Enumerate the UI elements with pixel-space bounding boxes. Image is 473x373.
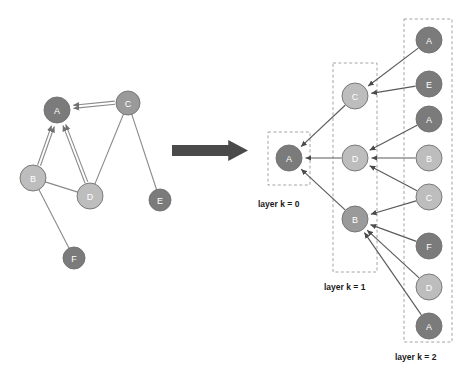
source-edge-b-a: [38, 126, 52, 165]
node-label: A: [426, 322, 432, 332]
tree-node-layer1-d-1[interactable]: D: [342, 145, 368, 171]
diagram-svg: ABCDEF ACDBAEABCFDA layer k = 0layer k =…: [0, 0, 473, 373]
tree-node-layer2-f-5[interactable]: F: [416, 233, 442, 259]
node-label: A: [54, 106, 60, 116]
node-label: B: [352, 215, 358, 225]
node-label: F: [71, 254, 77, 264]
source-edge-d-a-parallel: [66, 124, 88, 182]
tree-edge-t-A2c-to-t-B1: [364, 233, 421, 315]
transform-arrow: [172, 140, 248, 161]
source-edge-b-f: [38, 189, 69, 249]
node-label: D: [352, 154, 359, 164]
node-label: C: [125, 99, 132, 109]
tree-node-layer2-c-4[interactable]: C: [416, 184, 442, 210]
source-graph-nodes: ABCDEF: [20, 91, 171, 269]
source-node-c-2[interactable]: C: [116, 91, 140, 115]
node-label: A: [426, 36, 432, 46]
source-edge-c-e: [131, 113, 156, 190]
source-node-f-5[interactable]: F: [63, 247, 85, 269]
transform-arrow-group: [172, 140, 248, 161]
tree-node-layer1-c-0[interactable]: C: [342, 83, 368, 109]
diagram-canvas: ABCDEF ACDBAEABCFDA layer k = 0layer k =…: [0, 0, 473, 373]
node-label: B: [30, 174, 36, 184]
tree-node-layer2-a-2[interactable]: A: [416, 106, 442, 132]
node-label: D: [426, 283, 433, 293]
layer-label-layer2: layer k = 2: [395, 352, 437, 362]
source-node-e-4[interactable]: E: [149, 189, 171, 211]
tree-edge-t-C1-to-t-A0: [301, 105, 345, 146]
source-node-b-1[interactable]: B: [20, 165, 46, 191]
source-edge-d-a: [63, 125, 85, 183]
node-label: C: [352, 92, 359, 102]
source-edge-b-a-parallel: [40, 127, 54, 166]
tree-edge-t-E2-to-t-C1: [371, 86, 415, 93]
source-node-d-3[interactable]: D: [77, 183, 103, 209]
node-label: B: [426, 154, 432, 164]
tree-node-layer2-b-3[interactable]: B: [416, 145, 442, 171]
layer-label-layer1: layer k = 1: [324, 282, 366, 292]
tree-node-layer1-b-2[interactable]: B: [342, 206, 368, 232]
tree-node-layer2-a-7[interactable]: A: [416, 313, 442, 339]
tree-edge-t-B1-to-t-A0: [301, 169, 345, 210]
node-label: D: [87, 192, 94, 202]
node-label: F: [426, 242, 432, 252]
tree-edge-t-A2a-to-t-C1: [368, 48, 418, 86]
node-label: C: [426, 193, 433, 203]
tree-edge-t-C2-to-t-B1: [371, 201, 416, 214]
tree-node-layer2-d-6[interactable]: D: [416, 274, 442, 300]
source-node-a-0[interactable]: A: [44, 97, 70, 123]
source-edge-c-d: [95, 113, 124, 185]
node-label: A: [286, 154, 292, 164]
tree-node-layer2-e-1[interactable]: E: [416, 71, 442, 97]
source-edge-b-d: [44, 182, 78, 193]
node-label: E: [426, 80, 432, 90]
layer-label-layer0: layer k = 0: [258, 199, 300, 209]
tree-node-layer0-a-0[interactable]: A: [276, 145, 302, 171]
tree-edge-t-D2-to-t-B1: [367, 230, 419, 278]
node-label: E: [157, 196, 163, 206]
node-label: A: [426, 115, 432, 125]
tree-node-layer2-a-0[interactable]: A: [416, 27, 442, 53]
